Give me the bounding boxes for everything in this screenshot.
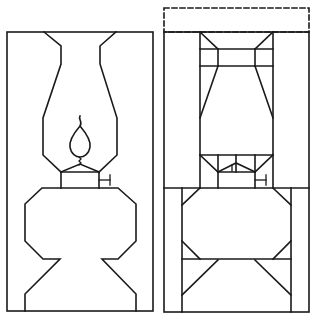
burner-diag-left (200, 155, 218, 172)
base-hip-left (182, 241, 200, 259)
base-hip-right (273, 241, 291, 259)
chimney-taper-left (200, 66, 218, 118)
flame-icon (70, 116, 90, 157)
base-shoulder-left (182, 188, 200, 205)
chimney-taper-right (255, 66, 273, 118)
left-panel (7, 32, 153, 311)
chimney-left-edge (43, 32, 61, 172)
chimney-right-edge (99, 32, 117, 172)
dashed-top-extension (164, 8, 309, 32)
base-foot-right (255, 260, 291, 295)
right-panel (164, 8, 309, 312)
lamp-diagram-figure (0, 0, 317, 318)
burner-diag-right (255, 155, 273, 172)
chimney-top-diag-right (255, 32, 273, 49)
chimney-top-diag-left (200, 32, 218, 49)
burner-cap (61, 164, 99, 172)
font-base-outline (25, 188, 136, 311)
base-shoulder-right (273, 188, 291, 205)
base-foot-left (182, 260, 218, 295)
